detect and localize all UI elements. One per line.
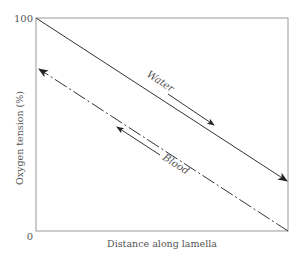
water-line (36, 18, 287, 181)
water-label: Water (145, 68, 177, 94)
y-tick-100: 100 (14, 13, 33, 24)
blood-direction-arrow (117, 127, 160, 155)
water-direction-arrow (168, 94, 214, 125)
plot-frame (36, 18, 288, 231)
countercurrent-chart: 100 0 Oxygen tension (%) Distance along … (0, 0, 304, 259)
y-axis-label: Oxygen tension (%) (14, 91, 25, 185)
x-axis-label: Distance along lamella (107, 238, 217, 249)
blood-label: Blood (160, 151, 191, 177)
blood-line (39, 69, 288, 231)
y-tick-0: 0 (27, 231, 33, 242)
